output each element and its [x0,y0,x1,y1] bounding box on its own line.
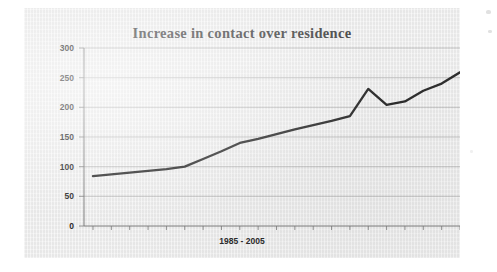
y-tick-label-150: 150 [60,132,74,142]
scanned-chart-page: Increase in contact over residence [24,8,460,258]
scan-artifact [488,30,492,33]
y-tick-label-50: 50 [65,191,75,201]
x-tick-marks [93,226,460,230]
y-tick-label-300: 300 [60,43,74,53]
scan-artifact [470,150,473,153]
scan-artifact [486,10,491,14]
screenshot-canvas: Increase in contact over residence [0,0,497,272]
chart-title: Increase in contact over residence [133,25,352,41]
line-chart: Increase in contact over residence [24,8,460,258]
y-tick-label-200: 200 [60,102,74,112]
y-tick-label-100: 100 [60,162,74,172]
gridlines [84,48,460,196]
data-series-line [93,72,460,176]
x-axis-title: 1985 - 2005 [219,236,265,246]
y-tick-label-0: 0 [69,221,74,231]
y-tick-marks [79,48,84,226]
y-axis-tick-labels: 300 250 200 150 100 50 0 [60,43,74,231]
y-tick-label-250: 250 [60,73,74,83]
